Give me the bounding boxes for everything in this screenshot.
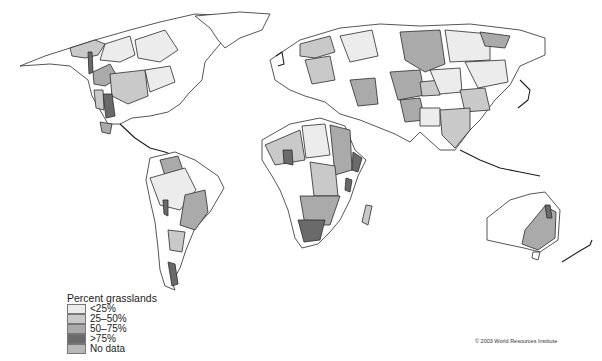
africa [262,118,372,248]
se-asia-islands [460,150,540,176]
legend-swatch [67,344,86,354]
legend-swatch [67,314,86,324]
legend-label: No data [90,344,125,354]
australia [487,192,592,262]
legend-swatch [67,324,86,334]
copyright-credit: © 2003 World Resources Institute [475,338,557,344]
japan [518,80,530,108]
north-america [20,14,232,156]
legend-item-no-data: No data [67,344,157,354]
legend-swatch [67,334,86,344]
legend: Percent grasslands <25% 25–50% 50–75% >7… [67,293,157,354]
south-america [146,152,224,290]
legend-title: Percent grasslands [67,293,157,303]
legend-swatch [67,304,86,314]
